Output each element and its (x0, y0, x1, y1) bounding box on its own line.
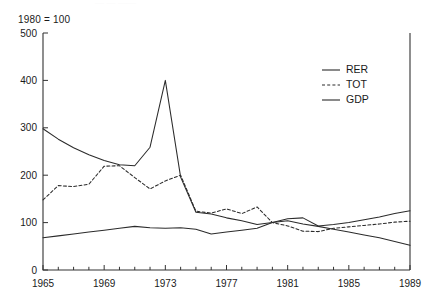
x-tick-label: 1981 (277, 278, 300, 289)
chart-legend: RERTOTGDP (322, 63, 369, 105)
x-tick-label: 1985 (338, 278, 361, 289)
y-tick-label: 300 (20, 122, 37, 133)
x-tick-label: 1965 (32, 278, 55, 289)
cropped-title-remnant: — — —— (95, 0, 136, 8)
index-base-note: 1980 = 100 (18, 14, 70, 25)
x-tick-label: 1989 (399, 278, 422, 289)
legend-label-tot: TOT (346, 78, 367, 90)
y-tick-label: 100 (20, 217, 37, 228)
y-tick-label: 400 (20, 75, 37, 86)
series-lines (43, 80, 410, 245)
series-line-gdp (43, 221, 410, 246)
x-tick-label: 1973 (154, 278, 177, 289)
y-tick-label: 500 (20, 28, 37, 39)
y-tick-label: 200 (20, 170, 37, 181)
legend-label-gdp: GDP (346, 93, 369, 105)
x-tick-label: 1969 (93, 278, 116, 289)
y-tick-label: 0 (31, 265, 37, 276)
x-tick-label: 1977 (215, 278, 238, 289)
chart-figure: — — —— 1980 = 100 0100200300400500196519… (0, 0, 437, 307)
legend-label-rer: RER (346, 63, 369, 75)
line-chart-plot: 0100200300400500196519691973197719811985… (0, 0, 437, 307)
